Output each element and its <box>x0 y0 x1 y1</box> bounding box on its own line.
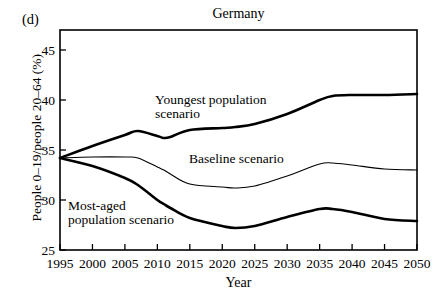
series-annotations: Youngest populationscenarioBaseline scen… <box>68 92 284 227</box>
y-tick-label: 35 <box>42 143 56 158</box>
y-tick-label: 45 <box>42 43 56 58</box>
x-tick-marks <box>60 244 417 250</box>
y-tick-label: 30 <box>42 193 56 208</box>
x-tick-label: 2045 <box>371 256 398 271</box>
plot-area: 2530354045 19952000200520102015202020252… <box>0 0 443 299</box>
x-tick-label: 2025 <box>241 256 268 271</box>
series-annotation-label: scenario <box>155 106 200 121</box>
x-tick-label: 2010 <box>144 256 171 271</box>
x-tick-label: 2040 <box>339 256 366 271</box>
x-tick-labels: 1995200020052010201520202025203020352040… <box>47 256 431 271</box>
series-annotation-label: Most-aged <box>68 198 126 213</box>
x-tick-label: 1995 <box>47 256 74 271</box>
figure-panel-d: (d) Germany People 0–19/people 20–64 (%)… <box>0 0 443 299</box>
x-tick-label: 2000 <box>79 256 106 271</box>
series-annotation-label: Baseline scenario <box>189 151 284 166</box>
x-tick-label: 2030 <box>274 256 301 271</box>
x-tick-label: 2035 <box>306 256 333 271</box>
y-tick-label: 40 <box>42 93 56 108</box>
x-tick-label: 2015 <box>176 256 203 271</box>
x-tick-label: 2005 <box>111 256 138 271</box>
y-tick-marks <box>60 50 66 250</box>
x-tick-label: 2020 <box>209 256 236 271</box>
y-tick-labels: 2530354045 <box>42 43 56 258</box>
series-annotation-label: Youngest population <box>155 92 267 107</box>
series-annotation-label: population scenario <box>68 212 174 227</box>
x-tick-label: 2050 <box>404 256 431 271</box>
